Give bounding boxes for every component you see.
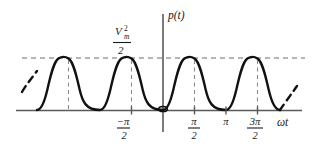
x-axis-label: ωt <box>277 116 289 128</box>
power-curve <box>37 57 280 110</box>
chart-canvas: p(t) ωt V 2 m 2 −π 2 π 2 π 3π 2 <box>0 0 315 147</box>
tick-label-pi: π <box>223 116 229 127</box>
curve-extension-left <box>22 71 37 92</box>
tick-label-half-pi-denominator: 2 <box>191 130 197 141</box>
amplitude-label: V 2 m 2 <box>113 24 131 56</box>
tick-label-half-pi: π 2 <box>188 116 200 141</box>
amplitude-denominator: 2 <box>118 44 124 56</box>
tick-label-neg-half-pi-numerator: −π <box>117 116 130 127</box>
tick-label-neg-half-pi: −π 2 <box>117 116 130 141</box>
tick-label-three-half-pi: 3π 2 <box>247 116 263 141</box>
tick-label-three-half-pi-numerator: 3π <box>249 116 261 127</box>
y-axis-label: p(t) <box>167 9 185 22</box>
power-waveform-figure: p(t) ωt V 2 m 2 −π 2 π 2 π 3π 2 <box>0 0 315 147</box>
tick-label-three-half-pi-denominator: 2 <box>252 130 258 141</box>
amplitude-numerator-subscript: m <box>124 32 130 41</box>
tick-label-neg-half-pi-denominator: 2 <box>121 130 127 141</box>
amplitude-numerator-symbol: V <box>115 25 123 37</box>
tick-label-half-pi-numerator: π <box>191 116 197 127</box>
curve-extension-right <box>280 86 297 110</box>
